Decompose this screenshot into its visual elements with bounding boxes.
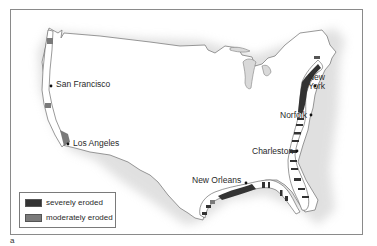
city-dot-charleston (296, 150, 299, 153)
city-label-charleston: Charleston (252, 147, 293, 156)
legend-label: moderately eroded (46, 214, 113, 222)
severe-swatch-icon (25, 199, 42, 207)
moderate-segment (45, 103, 51, 108)
city-dot-san-francisco (50, 85, 53, 88)
city-label-new-york: New York (303, 73, 325, 90)
coastal-erosion-map-figure: San Francisco Los Angeles New York Norfo… (0, 0, 377, 246)
city-label-san-francisco: San Francisco (56, 80, 110, 89)
city-dot-los-angeles (67, 143, 70, 146)
city-dot-norfolk (310, 114, 313, 117)
panel-letter: a (10, 237, 14, 245)
city-dot-new-orleans (245, 182, 248, 185)
legend-item-moderately-eroded: moderately eroded (25, 213, 113, 223)
city-label-new-orleans: New Orleans (192, 176, 241, 185)
city-label-norfolk: Norfolk (280, 111, 307, 120)
legend-label: severely eroded (46, 199, 103, 207)
moderate-segment (47, 38, 53, 44)
moderate-swatch-icon (25, 214, 42, 222)
legend-item-severely-eroded: severely eroded (25, 198, 103, 208)
city-label-los-angeles: Los Angeles (73, 139, 119, 148)
map-legend: severely eroded moderately eroded (19, 192, 116, 228)
